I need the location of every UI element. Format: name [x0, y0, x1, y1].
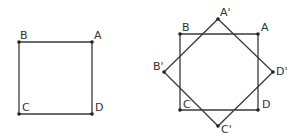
square-abcd: [19, 42, 92, 114]
label-c: C: [183, 98, 191, 111]
diagram-canvas: A B C D A B C D A' B' C' D': [0, 0, 300, 138]
label-d: D: [95, 101, 103, 114]
label-d: D: [262, 98, 270, 111]
point-d: [256, 108, 260, 112]
label-d-prime: D': [276, 65, 288, 78]
point-c: [178, 108, 182, 112]
label-a: A: [261, 21, 269, 34]
label-c-prime: C': [221, 123, 232, 136]
label-b-prime: B': [153, 60, 164, 73]
label-b: B: [182, 21, 190, 34]
label-a-prime: A': [220, 6, 231, 19]
point-c-prime: [216, 124, 220, 128]
label-a: A: [94, 29, 102, 42]
left-figure: A B C D: [17, 29, 103, 116]
label-b: B: [20, 29, 28, 42]
label-c: C: [22, 101, 30, 114]
point-d-prime: [271, 70, 275, 74]
point-c: [17, 112, 21, 116]
right-figure: A B C D A' B' C' D': [153, 6, 288, 136]
point-d: [90, 112, 94, 116]
point-a: [256, 32, 260, 36]
